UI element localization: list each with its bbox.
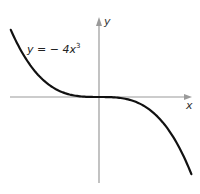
x-axis-label: x [185, 99, 193, 112]
graph-canvas: x y y = − 4x3 [0, 0, 200, 194]
equation-text: y = − 4x [26, 43, 76, 56]
y-axis-arrow-icon [96, 17, 102, 26]
equation-label: y = − 4x3 [26, 42, 80, 56]
equation-exponent: 3 [76, 42, 80, 50]
y-axis-label: y [103, 15, 111, 28]
